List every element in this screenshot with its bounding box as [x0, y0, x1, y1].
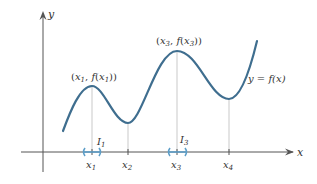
tick-label-x3: x3 — [171, 159, 182, 172]
point-label-x3: (x3, f(x3)) — [156, 35, 202, 48]
x-axis-label: x — [297, 146, 304, 159]
tick-label-x2: x2 — [122, 159, 133, 172]
function-extrema-diagram: y x (x1, f(x1)) (x3, f(x3)) y = f(x) I1 — [0, 0, 317, 184]
point-label-x1: (x1, f(x1)) — [71, 71, 117, 84]
curve-label: y = f(x) — [247, 73, 286, 84]
interval-label-I3: I3 — [179, 134, 189, 147]
tick-label-x1: x1 — [86, 159, 96, 172]
tick-label-x4: x4 — [223, 159, 233, 172]
x-axis: x — [21, 146, 304, 159]
interval-label-I1: I1 — [96, 136, 105, 149]
y-axis-label: y — [47, 8, 55, 21]
y-axis: y — [40, 8, 56, 172]
